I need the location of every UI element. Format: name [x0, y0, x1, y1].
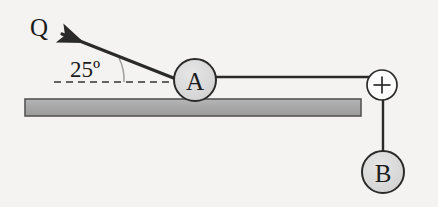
- angle-label: 25º: [70, 57, 100, 82]
- angle-arc: [119, 58, 124, 82]
- physics-diagram: Q 25º A B: [0, 0, 438, 207]
- block-b-label: B: [375, 160, 392, 187]
- force-label-q: Q: [30, 14, 48, 41]
- block-a-label: A: [186, 68, 204, 95]
- diagram-canvas: Q 25º A B: [0, 0, 438, 207]
